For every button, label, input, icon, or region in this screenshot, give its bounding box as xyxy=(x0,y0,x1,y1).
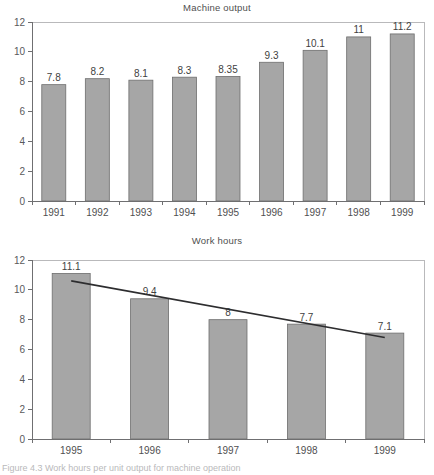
x-axis-tick-label: 1992 xyxy=(86,207,109,218)
x-axis-tick-label: 1998 xyxy=(295,445,318,456)
y-axis-tick-label: 6 xyxy=(19,106,25,117)
bar-value-label: 10.1 xyxy=(305,38,325,49)
bar-value-label: 11.1 xyxy=(62,261,81,272)
bar-value-label: 7.1 xyxy=(378,321,392,332)
x-axis-tick-label: 1997 xyxy=(304,207,327,218)
plot-work-hours: 02468101211.119959.41996819977.719987.11… xyxy=(0,228,434,460)
x-axis-tick-label: 1998 xyxy=(348,207,371,218)
bar xyxy=(347,37,371,201)
y-axis-tick-label: 4 xyxy=(19,374,25,385)
x-axis-tick-label: 1994 xyxy=(173,207,196,218)
y-axis-tick-label: 2 xyxy=(19,404,25,415)
figure-container: Machine output 0246810127.819918.219928.… xyxy=(0,0,434,475)
bar-value-label: 9.3 xyxy=(265,50,279,61)
bar-value-label: 7.7 xyxy=(299,312,313,323)
y-axis-tick-label: 0 xyxy=(19,434,25,445)
bar xyxy=(366,333,404,439)
bar xyxy=(172,77,196,201)
y-axis-tick-label: 10 xyxy=(14,46,26,57)
x-axis-tick-label: 1997 xyxy=(217,445,240,456)
bar xyxy=(390,34,414,201)
bar xyxy=(129,80,153,201)
y-axis-tick-label: 6 xyxy=(19,344,25,355)
y-axis-tick-label: 4 xyxy=(19,136,25,147)
bar xyxy=(260,62,284,201)
x-axis-tick-label: 1995 xyxy=(217,207,240,218)
bar xyxy=(42,85,66,201)
bar-value-label: 8.1 xyxy=(134,68,148,79)
bar xyxy=(303,50,327,201)
y-axis-tick-label: 8 xyxy=(19,314,25,325)
bar-value-label: 8.3 xyxy=(177,65,191,76)
x-axis-tick-label: 1991 xyxy=(43,207,66,218)
bar xyxy=(85,79,109,201)
x-axis-tick-label: 1996 xyxy=(138,445,161,456)
bar-value-label: 11.2 xyxy=(393,21,412,32)
x-axis-tick-label: 1996 xyxy=(260,207,283,218)
chart-machine-output: Machine output 0246810127.819918.219928.… xyxy=(0,0,434,222)
y-axis-tick-label: 12 xyxy=(14,255,26,266)
bar xyxy=(131,299,169,439)
y-axis-tick-label: 10 xyxy=(14,284,26,295)
y-axis-tick-label: 2 xyxy=(19,166,25,177)
x-axis-tick-label: 1993 xyxy=(130,207,153,218)
bar-value-label: 11 xyxy=(353,24,364,35)
y-axis-tick-label: 0 xyxy=(19,196,25,207)
x-axis-tick-label: 1999 xyxy=(374,445,397,456)
figure-caption: Figure 4.3 Work hours per unit output fo… xyxy=(2,463,432,475)
bar xyxy=(209,320,247,439)
bar xyxy=(216,76,240,201)
plot-machine-output: 0246810127.819918.219928.119938.319948.3… xyxy=(0,0,434,222)
x-axis-tick-label: 1995 xyxy=(60,445,83,456)
chart-work-hours: Work hours 02468101211.119959.4199681997… xyxy=(0,228,434,460)
bar xyxy=(287,324,325,439)
y-axis-tick-label: 12 xyxy=(14,17,26,28)
bar xyxy=(52,273,90,439)
x-axis-tick-label: 1999 xyxy=(391,207,414,218)
y-axis-tick-label: 8 xyxy=(19,76,25,87)
bar-value-label: 8.2 xyxy=(90,66,104,77)
bar-value-label: 8.35 xyxy=(218,64,238,75)
bar-value-label: 7.8 xyxy=(47,72,61,83)
